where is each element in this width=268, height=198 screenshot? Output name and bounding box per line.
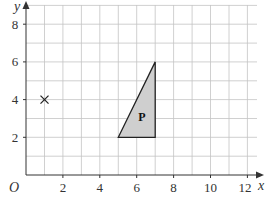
x-tick-2: 2: [60, 180, 67, 195]
x-tick-4: 4: [97, 180, 104, 195]
x-tick-10: 10: [204, 180, 217, 195]
y-axis-label: y: [12, 0, 21, 14]
tick-marks: [23, 24, 247, 178]
y-tick-8: 8: [12, 17, 19, 32]
x-tick-6: 6: [133, 180, 140, 195]
coordinate-grid: 2 4 6 8 10 12 2 4 6 8 O x y P: [0, 0, 268, 198]
origin-label: O: [9, 180, 19, 195]
y-tick-4: 4: [12, 92, 19, 107]
y-tick-6: 6: [12, 54, 19, 69]
triangle-p-label: P: [138, 110, 145, 124]
x-tick-8: 8: [170, 180, 177, 195]
x-tick-12: 12: [239, 180, 252, 195]
x-axis-label: x: [257, 178, 265, 193]
y-tick-2: 2: [12, 130, 19, 145]
